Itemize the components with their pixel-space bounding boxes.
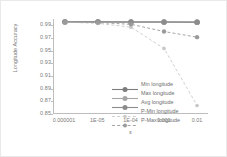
- legend-label: Avg longitude: [141, 100, 174, 105]
- legend-item-4: P-Min longitude: [112, 107, 180, 116]
- legend-key-icon: [112, 89, 138, 98]
- legend-key-icon: [112, 98, 138, 107]
- y-tick-label: 0.93: [25, 60, 51, 65]
- y-tick-mark: [51, 114, 53, 115]
- y-tick-label: 0.95: [25, 48, 51, 53]
- data-point-marker: [129, 22, 133, 26]
- y-tick-label: 0.91: [25, 73, 51, 78]
- legend-label: P-Min longitude: [141, 109, 178, 114]
- data-point-marker: [96, 20, 100, 24]
- x-axis-tick-labels: 0.0000011E-051E-040.0010.01: [53, 116, 208, 128]
- x-tick-label: 1E-05: [90, 118, 104, 123]
- y-axis-title: Longitude Accuracy: [12, 3, 18, 93]
- y-tick-label: 0.85: [25, 111, 51, 116]
- legend-key-icon: [112, 80, 138, 89]
- x-axis-title: ε: [53, 129, 208, 135]
- chart-figure: Longitude Accuracy 0.990.970.950.930.910…: [0, 0, 227, 157]
- legend-item-1: Min longitude: [112, 80, 180, 89]
- data-point-marker: [162, 47, 166, 51]
- x-tick-label: 1E-04: [123, 118, 137, 123]
- x-tick-label: 0.01: [192, 118, 203, 123]
- data-point-marker: [162, 29, 166, 33]
- y-tick-label: 0.89: [25, 86, 51, 91]
- data-point-marker: [161, 19, 166, 24]
- legend-label: Min longitude: [141, 82, 173, 87]
- plot-area: Min longitudeMax longitudeAvg longitudeP…: [53, 19, 208, 114]
- data-point-marker: [63, 20, 67, 24]
- x-tick-label: 0.001: [157, 118, 171, 123]
- x-tick-label: 0.000001: [53, 118, 75, 123]
- y-tick-label: 0.99: [25, 22, 51, 27]
- legend-item-3: Avg longitude: [112, 98, 180, 107]
- y-tick-label: 0.87: [25, 98, 51, 103]
- data-point-marker: [195, 104, 199, 108]
- legend-key-icon: [112, 107, 138, 116]
- legend-item-2: Max longitude: [112, 89, 180, 98]
- y-axis-tick-labels: 0.990.970.950.930.910.890.870.85: [19, 19, 51, 114]
- legend-label: Max longitude: [141, 91, 175, 96]
- data-point-marker: [195, 35, 199, 39]
- y-tick-label: 0.97: [25, 35, 51, 40]
- data-point-marker: [194, 20, 199, 25]
